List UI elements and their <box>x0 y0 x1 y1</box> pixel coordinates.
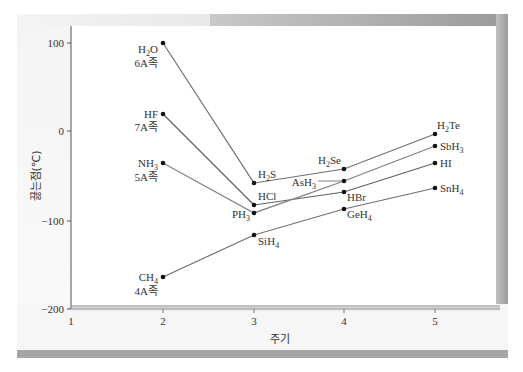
label-hi: HI <box>440 157 452 169</box>
x-tick-label: 2 <box>160 315 166 327</box>
label-h2se: H2Se <box>318 154 341 169</box>
group-5a-label: 5A족 <box>135 171 158 183</box>
x-axis-title: 주기 <box>270 333 290 346</box>
label-geh4: GeH4 <box>347 208 372 223</box>
label-hbr: HBr <box>347 191 366 203</box>
label-ash3: AsH3 <box>292 176 316 191</box>
label-h2o: H2O <box>138 43 158 58</box>
label-hf: HF <box>144 108 158 120</box>
data-points <box>161 41 438 280</box>
boiling-point-chart: 100 0 −100 −200 1 2 3 4 5 주기 끓는점(℃) H2O … <box>0 0 523 372</box>
group-6a-label: 6A족 <box>135 57 158 69</box>
label-hcl: HCl <box>258 190 276 202</box>
group-7a-label: 7A족 <box>135 121 158 133</box>
label-snh4: SnH4 <box>440 182 464 197</box>
group-4a-label: 4A족 <box>135 285 158 297</box>
y-ticks: 100 0 −100 −200 <box>41 37 71 315</box>
label-h2te: H2Te <box>437 119 460 134</box>
x-tick-label: 5 <box>432 315 438 327</box>
series-7a-line <box>163 114 435 205</box>
label-ch4: CH4 <box>139 271 158 286</box>
x-ticks: 1 2 3 4 5 <box>68 309 438 327</box>
y-tick-label: −200 <box>41 303 64 315</box>
y-axis-title: 끓는점(℃) <box>30 151 43 202</box>
y-tick-label: −100 <box>41 215 64 227</box>
y-tick-label: 100 <box>48 37 65 49</box>
x-tick-label: 3 <box>251 315 257 327</box>
series-4a-line <box>163 188 435 277</box>
label-nh3: NH3 <box>138 157 158 172</box>
label-ph3: PH3 <box>232 208 250 223</box>
label-sih4: SiH4 <box>258 235 279 250</box>
label-sbh3: SbH3 <box>440 140 464 155</box>
y-tick-label: 0 <box>59 125 65 137</box>
label-h2s: H2S <box>258 168 276 183</box>
x-tick-label: 4 <box>341 315 347 327</box>
x-tick-label: 1 <box>68 315 74 327</box>
